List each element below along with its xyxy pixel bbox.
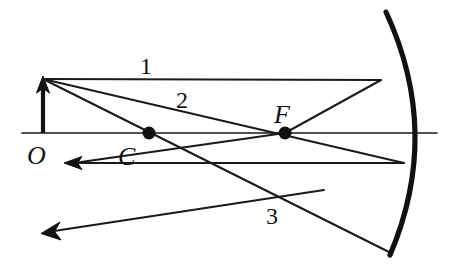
- ray-1-incident-line: [43, 79, 381, 80]
- ray-3-reflected-line: [54, 190, 324, 231]
- ray-1-label: 1: [140, 53, 152, 79]
- ray-2-incident-line: [43, 79, 404, 163]
- ray-diagram-figure: O C F 1 2 3: [0, 0, 451, 272]
- ray-1-reflected-line: [285, 80, 381, 133]
- ray-3-label: 3: [266, 203, 278, 229]
- optics-diagram-canvas: O C F 1 2 3: [0, 0, 451, 272]
- object-label: O: [27, 141, 46, 170]
- center-of-curvature-dot: [143, 127, 156, 140]
- center-of-curvature-label: C: [118, 142, 136, 171]
- focal-point-label: F: [273, 100, 291, 129]
- ray-2-label: 2: [176, 87, 188, 113]
